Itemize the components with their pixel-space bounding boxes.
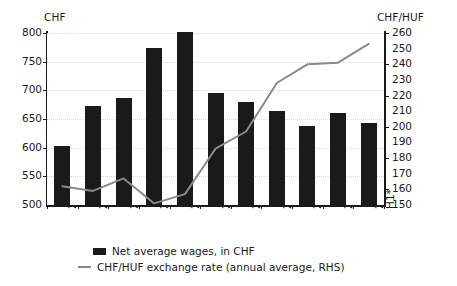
left-axis-tick-label: 800	[22, 27, 42, 38]
right-axis-tick-label: 230	[392, 74, 412, 85]
legend-item-bars: Net average wages, in CHF	[0, 243, 457, 259]
right-axis-tick-mark	[385, 127, 389, 128]
legend-bar-swatch-icon	[93, 248, 106, 255]
line-series	[47, 33, 384, 205]
right-axis-tick-mark	[385, 64, 389, 65]
legend-item-line: CHF/HUF exchange rate (annual average, R…	[0, 259, 457, 275]
right-axis-tick-label: 250	[392, 43, 412, 54]
chart-container: CHF CHF/HUF 500550600650700750800 150160…	[0, 0, 457, 286]
left-axis-title: CHF	[44, 11, 66, 23]
left-axis-tick-label: 650	[22, 113, 42, 124]
right-axis-tick-label: 170	[392, 168, 412, 179]
right-axis-tick-label: 200	[392, 121, 412, 132]
legend-label-line: CHF/HUF exchange rate (annual average, R…	[97, 261, 345, 273]
right-axis-tick-label: 220	[392, 90, 412, 101]
right-axis-tick-mark	[385, 33, 389, 34]
plot-area	[47, 33, 384, 205]
legend-line-swatch-icon	[78, 266, 91, 268]
left-axis-tick-mark	[43, 33, 47, 34]
left-axis-tick-label: 750	[22, 56, 42, 67]
right-axis-tick-label: 210	[392, 105, 412, 116]
right-axis-tick-label: 180	[392, 152, 412, 163]
right-axis-spine	[384, 31, 386, 207]
left-axis-tick-mark	[43, 119, 47, 120]
left-axis-tick-mark	[43, 176, 47, 177]
left-axis-tick-mark	[43, 148, 47, 149]
left-axis-tick-mark	[43, 90, 47, 91]
left-axis-tick-label: 500	[22, 199, 42, 210]
right-axis-tick-mark	[385, 96, 389, 97]
right-axis-title: CHF/HUF	[377, 11, 424, 23]
left-axis-tick-label: 550	[22, 170, 42, 181]
right-axis-tick-label: 240	[392, 58, 412, 69]
x-axis-tick-mark	[47, 205, 48, 209]
right-axis-tick-label: 260	[392, 27, 412, 38]
left-axis-tick-label: 600	[22, 142, 42, 153]
legend-label-bars: Net average wages, in CHF	[112, 245, 255, 257]
right-axis-tick-label: 190	[392, 136, 412, 147]
right-axis-tick-mark	[385, 158, 389, 159]
chart-legend: Net average wages, in CHF CHF/HUF exchan…	[0, 243, 457, 275]
left-axis-tick-label: 700	[22, 84, 42, 95]
exchange-rate-polyline	[62, 44, 368, 204]
left-axis-tick-mark	[43, 62, 47, 63]
